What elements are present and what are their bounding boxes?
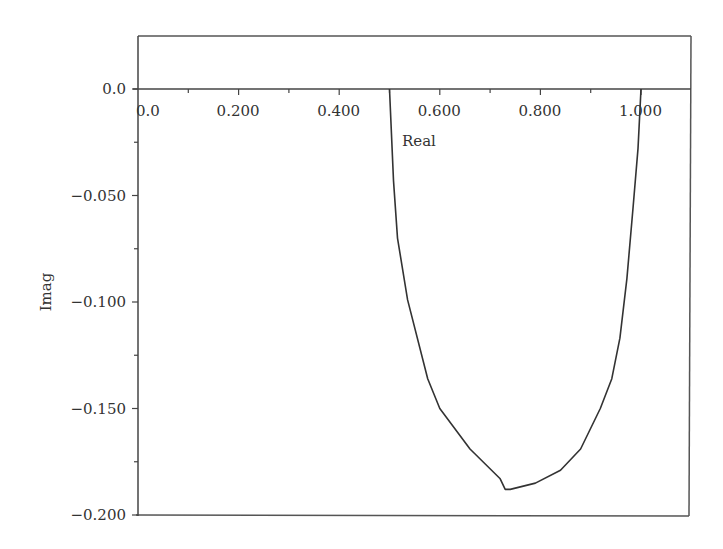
y-axis-ticks: 0.0−0.050−0.100−0.150−0.200 — [70, 80, 138, 524]
y-tick-label: −0.200 — [70, 506, 126, 524]
y-axis-title: Imag — [37, 272, 55, 311]
y-tick-label: −0.150 — [70, 400, 126, 418]
x-axis-title: Real — [402, 132, 436, 150]
y-tick-label: −0.100 — [70, 293, 126, 311]
x-tick-label: 0.800 — [518, 102, 561, 120]
x-tick-label: 0.400 — [317, 102, 360, 120]
right-border — [689, 36, 691, 516]
x-axis-ticks: 0.00.2000.4000.6000.8001.000 — [136, 89, 662, 120]
x-tick-label: 0.600 — [418, 102, 461, 120]
y-tick-label: −0.050 — [70, 187, 126, 205]
bottom-border — [136, 515, 689, 516]
x-tick-label: 0.0 — [136, 102, 160, 120]
y-tick-label: 0.0 — [102, 80, 126, 98]
nyquist-chart: 0.00.2000.4000.6000.8001.000 0.0−0.050−0… — [0, 0, 723, 549]
x-tick-label: 0.200 — [217, 102, 260, 120]
